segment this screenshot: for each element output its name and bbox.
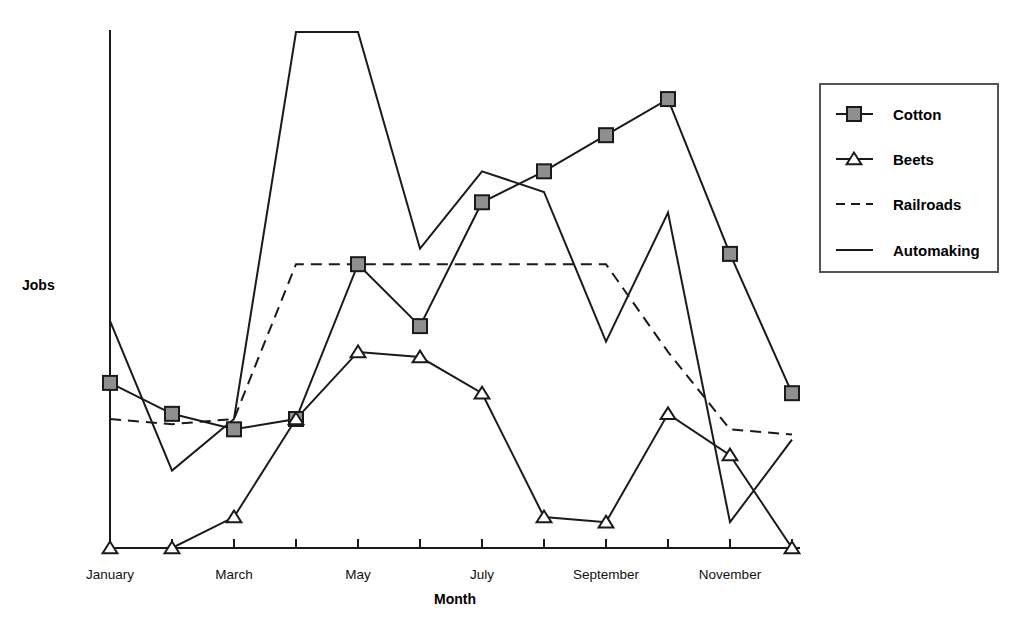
x-axis-tick-label: November <box>699 567 762 582</box>
data-point-marker-cotton <box>661 92 675 106</box>
legend-label-cotton: Cotton <box>893 106 941 123</box>
data-point-marker-beets <box>661 407 676 419</box>
data-point-marker-beets <box>537 511 552 523</box>
x-axis-title: Month <box>434 591 476 607</box>
data-point-marker-cotton <box>475 195 489 209</box>
data-point-marker-cotton <box>537 164 551 178</box>
data-point-marker-beets <box>351 345 366 357</box>
y-axis-title: Jobs <box>22 277 55 293</box>
chart-page: JanuaryMarchMayJulySeptemberNovember Job… <box>0 0 1026 642</box>
x-axis-tick-label: July <box>470 567 494 582</box>
data-point-marker-cotton <box>227 422 241 436</box>
x-axis-tick-label: January <box>86 567 134 582</box>
data-point-marker-cotton <box>103 376 117 390</box>
data-point-marker-cotton <box>413 319 427 333</box>
legend-label-automaking: Automaking <box>893 242 980 259</box>
series-group <box>110 32 792 548</box>
data-point-marker-beets <box>723 449 738 461</box>
data-point-marker-cotton <box>785 386 799 400</box>
line-chart: JanuaryMarchMayJulySeptemberNovember Job… <box>0 0 1026 642</box>
legend: CottonBeetsRailroadsAutomaking <box>820 84 998 272</box>
x-axis-tick-label: May <box>345 567 371 582</box>
x-axis-tick-label: March <box>215 567 253 582</box>
legend-label-beets: Beets <box>893 151 934 168</box>
data-point-marker-beets <box>475 387 490 399</box>
legend-marker-cotton <box>847 107 861 121</box>
data-point-marker-cotton <box>165 407 179 421</box>
marker-group <box>103 92 800 553</box>
series-line-automaking <box>110 32 792 522</box>
series-line-beets <box>110 352 792 548</box>
x-axis-tick-label: September <box>573 567 640 582</box>
legend-label-railroads: Railroads <box>893 196 961 213</box>
data-point-marker-cotton <box>351 257 365 271</box>
data-point-marker-cotton <box>599 128 613 142</box>
series-line-railroads <box>110 264 792 434</box>
data-point-marker-cotton <box>723 247 737 261</box>
x-axis-tick-labels: JanuaryMarchMayJulySeptemberNovember <box>86 567 762 582</box>
data-point-marker-beets <box>227 511 242 523</box>
